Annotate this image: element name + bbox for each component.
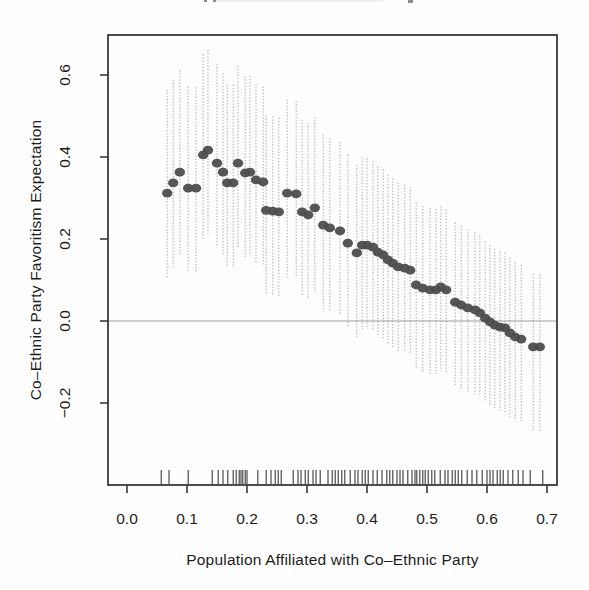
data-point (212, 159, 222, 168)
x-tick-label: 0.6 (476, 510, 498, 527)
y-tick-label: 0.6 (56, 64, 73, 86)
plot-box (108, 35, 557, 485)
data-point (245, 168, 255, 177)
data-point (282, 189, 292, 198)
data-point (352, 249, 362, 258)
data-point (228, 178, 238, 187)
x-axis-title: Population Affiliated with Co–Ethnic Par… (108, 551, 557, 569)
data-point (335, 226, 345, 235)
y-tick-label: 0.0 (56, 310, 73, 332)
data-point (303, 210, 313, 219)
y-tick-label: −0.2 (56, 388, 73, 419)
data-point (233, 159, 243, 168)
y-axis-title: Co–Ethnic Party Favoritism Expectation (27, 35, 45, 485)
data-point (191, 184, 201, 193)
data-point (535, 342, 545, 351)
data-point (291, 190, 301, 199)
y-tick-label: 0.4 (56, 146, 73, 168)
data-point (258, 178, 268, 187)
x-tick-label: 0.4 (356, 510, 378, 527)
y-tick-label: 0.2 (56, 228, 73, 250)
x-tick-label: 0.7 (536, 510, 558, 527)
data-point (274, 208, 284, 217)
x-tick-label: 0.5 (416, 510, 438, 527)
x-tick-label: 0.1 (176, 510, 198, 527)
x-tick-label: 0.3 (296, 510, 318, 527)
data-point (218, 168, 228, 177)
x-tick-label: 0.0 (116, 510, 138, 527)
data-point (168, 178, 178, 187)
data-point (343, 239, 353, 248)
data-point (405, 266, 415, 275)
data-point (203, 146, 213, 155)
data-point (175, 168, 185, 177)
plot-area: 0.00.10.20.30.40.50.60.7−0.20.00.20.40.6 (0, 0, 589, 590)
data-point (325, 224, 335, 233)
x-tick-label: 0.2 (236, 510, 258, 527)
data-point (441, 285, 451, 294)
figure: 0.00.10.20.30.40.50.60.7−0.20.00.20.40.6… (0, 0, 589, 590)
data-point (162, 189, 172, 198)
data-point (516, 335, 526, 344)
data-point (310, 203, 320, 212)
